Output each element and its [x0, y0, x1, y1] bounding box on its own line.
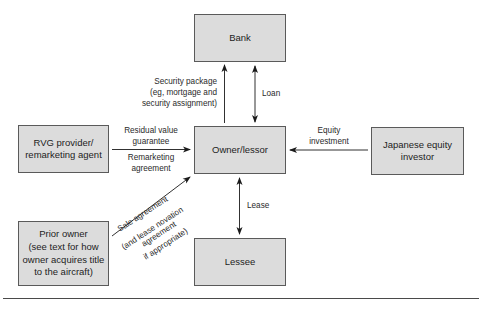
japanese-equity-investor-label: Japanese equity investor — [383, 139, 452, 164]
bottom-rule — [3, 298, 479, 299]
lessee-box: Lessee — [194, 238, 286, 286]
bank-label: Bank — [229, 32, 251, 45]
owner-lessor-label: Owner/lessor — [212, 144, 268, 157]
prior-owner-label: Prior owner (see text for how owner acqu… — [23, 228, 105, 279]
remarketing-agreement-label: Remarketing agreement — [116, 152, 186, 174]
owner-lessor-box: Owner/lessor — [194, 126, 286, 174]
lease-label: Lease — [247, 200, 269, 211]
loan-label: Loan — [262, 88, 280, 99]
rvg-provider-label: RVG provider/ remarketing agent — [25, 137, 102, 162]
diagram-canvas: Bank Owner/lessor Lessee RVG provider/ r… — [0, 0, 486, 313]
prior-owner-box: Prior owner (see text for how owner acqu… — [18, 221, 109, 286]
security-package-label: Security package (eg, mortgage and secur… — [142, 76, 217, 109]
rvg-provider-box: RVG provider/ remarketing agent — [18, 125, 109, 173]
bank-box: Bank — [194, 14, 286, 62]
residual-value-guarantee-label: Residual value guarantee — [116, 125, 186, 147]
lessee-label: Lessee — [225, 256, 256, 269]
japanese-equity-investor-box: Japanese equity investor — [371, 127, 464, 175]
equity-investment-label: Equity investment — [300, 125, 358, 147]
